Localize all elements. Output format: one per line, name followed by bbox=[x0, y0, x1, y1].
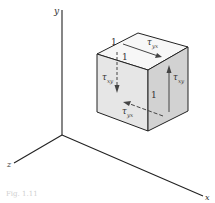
z-axis-label: z bbox=[6, 160, 12, 169]
x-axis bbox=[62, 135, 203, 196]
x-axis-label: x bbox=[205, 193, 210, 202]
tau-subscript: xy bbox=[178, 78, 185, 85]
figure-caption: Fig. 1.11 bbox=[6, 190, 38, 198]
y-axis-label: y bbox=[53, 6, 60, 16]
stress-element-diagram: y z x 1 1 1 τ yx τ xy τ xy τ yx bbox=[0, 0, 215, 203]
edge-length-label-top-inner: 1 bbox=[122, 52, 128, 62]
tau-subscript: yx bbox=[126, 112, 134, 119]
tau-subscript: xy bbox=[107, 78, 114, 85]
edge-length-label-top: 1 bbox=[111, 37, 117, 47]
z-axis bbox=[14, 135, 62, 163]
edge-length-label-right: 1 bbox=[151, 90, 157, 100]
tau-subscript: yx bbox=[151, 43, 159, 50]
